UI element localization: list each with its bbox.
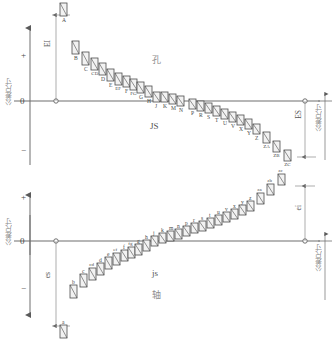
zone-letter-D: D	[101, 76, 105, 82]
zone-letter-H: H	[147, 98, 151, 104]
tolerance-zone-box	[91, 58, 98, 70]
zone-letter-fg: fg	[128, 241, 132, 246]
shaft-axes	[14, 186, 332, 326]
tolerance-zone-box	[97, 263, 104, 275]
tolerance-zone-box	[60, 3, 67, 16]
zone-letter-V: V	[231, 123, 235, 129]
zone-letter-c: c	[82, 268, 84, 274]
zone-letter-k: k	[161, 227, 164, 233]
tolerance-zone-box	[257, 193, 264, 204]
tolerance-zone-box	[231, 209, 238, 219]
tolerance-zone-box	[177, 96, 184, 106]
tolerance-zone-box	[284, 150, 291, 161]
tolerance-zone-box	[72, 41, 79, 54]
tolerance-zone-box	[175, 229, 182, 239]
tolerance-zone-box	[99, 63, 106, 75]
tolerance-zone-box	[169, 94, 176, 104]
zone-letter-F: F	[125, 88, 128, 94]
tolerance-zone-box	[183, 226, 190, 236]
shaft-lower-deviation-label: ei	[294, 205, 303, 210]
tolerance-zone-box	[189, 99, 196, 109]
zone-letter-p: p	[185, 220, 188, 226]
shaft-upper-deviation-label: es	[43, 272, 52, 278]
tolerance-zone-box	[145, 86, 152, 97]
tolerance-zone-box	[121, 250, 128, 261]
tolerance-zone-box	[89, 268, 96, 280]
zone-letter-P: P	[191, 110, 194, 116]
zone-letter-U: U	[223, 120, 227, 126]
zone-letter-v: v	[225, 206, 228, 212]
zone-letter-cd: cd	[89, 262, 94, 267]
tolerance-zone-box	[113, 253, 120, 265]
tolerance-zone-box	[159, 233, 166, 243]
zone-letter-t: t	[209, 212, 211, 218]
zone-letter-m: m	[169, 225, 173, 231]
tolerance-zone-box	[130, 79, 137, 90]
zone-letter-R: R	[199, 112, 203, 118]
zone-letter-g: g	[137, 238, 140, 244]
shaft-left-axis-label: 公差尺寸	[4, 218, 14, 246]
shaft-minus-label: −	[21, 283, 26, 293]
zone-letter-S: S	[207, 114, 210, 120]
zone-letter-zb: zb	[267, 178, 272, 183]
shaft-js-label: js	[152, 268, 158, 278]
hole-lower-deviation-label: EI	[43, 40, 52, 47]
zone-letter-K: K	[163, 103, 167, 109]
tolerance-zone-box	[197, 101, 204, 111]
zone-letter-x: x	[233, 203, 236, 209]
hole-upper-deviation-label: ES	[294, 110, 303, 119]
shaft-section-label: 轴	[152, 288, 161, 301]
tolerance-zone-box	[107, 69, 114, 81]
zone-letter-CD: CD	[91, 71, 98, 76]
hole-section-label: 孔	[152, 53, 161, 66]
tolerance-zone-box	[80, 274, 87, 287]
tolerance-zone-box	[237, 115, 244, 125]
zone-letter-J: J	[155, 103, 157, 109]
zone-letter-A: A	[62, 17, 66, 23]
zone-letter-N: N	[179, 107, 183, 113]
shaft-right-axis-label: 公差尺寸	[314, 244, 324, 272]
tolerance-zone-box	[215, 215, 222, 225]
zone-letter-T: T	[215, 117, 218, 123]
zone-letter-FG: FG	[130, 91, 136, 96]
tolerance-zone-box	[82, 52, 89, 65]
tolerance-zone-box	[167, 231, 174, 241]
tolerance-zone-box	[70, 285, 77, 298]
tolerance-zone-box	[60, 325, 67, 338]
shaft-plus-label: +	[21, 192, 26, 202]
tolerance-zone-box	[207, 218, 214, 228]
tolerance-zone-box	[153, 92, 160, 102]
zone-letter-r: r	[193, 217, 195, 223]
zone-letter-E: E	[109, 82, 112, 88]
hole-zero-label: 0	[20, 96, 25, 106]
zone-letter-Y: Y	[247, 130, 251, 136]
tolerance-zone-box	[263, 132, 270, 143]
tolerance-zone-box	[229, 112, 236, 122]
tolerance-zone-box	[151, 236, 158, 246]
zone-letter-h: h	[145, 234, 148, 240]
zone-letter-u: u	[217, 209, 220, 215]
zone-letter-X: X	[239, 126, 243, 132]
zone-letter-y: y	[241, 199, 244, 205]
zone-letter-ZC: ZC	[284, 162, 290, 167]
tolerance-zone-box	[137, 82, 144, 93]
tolerance-zone-box	[267, 184, 274, 195]
tolerance-zone-box	[273, 141, 280, 152]
hole-minus-label: −	[21, 145, 26, 155]
diagram-canvas	[0, 0, 336, 341]
hole-axes	[14, 15, 332, 165]
tolerance-zone-box	[123, 76, 130, 87]
tolerance-zone-box	[253, 124, 260, 134]
tolerance-zone-box	[221, 109, 228, 119]
zone-letter-B: B	[74, 55, 78, 61]
zone-letter-Z: Z	[255, 135, 258, 141]
tolerance-zone-box	[239, 205, 246, 215]
zone-letter-s: s	[201, 215, 203, 221]
zone-letter-j: j	[153, 230, 155, 236]
hole-js-label: JS	[150, 121, 159, 131]
zone-letter-ZA: ZA	[263, 144, 270, 149]
zone-letter-ZB: ZB	[273, 153, 279, 158]
tolerance-zone-box	[278, 174, 285, 185]
zone-letter-a: a	[62, 319, 64, 325]
zone-letter-z: z	[249, 195, 251, 201]
